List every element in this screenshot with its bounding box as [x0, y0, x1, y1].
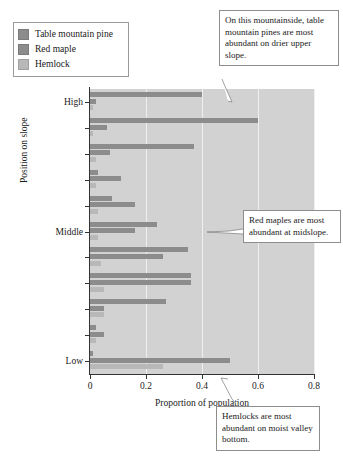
bar — [90, 118, 258, 123]
bar — [90, 338, 96, 343]
bar — [90, 358, 230, 363]
annotation-table-mountain-pine: On this mountainside, table mountain pin… — [219, 10, 339, 66]
bar — [90, 99, 96, 104]
bar — [90, 364, 163, 369]
bar — [90, 92, 202, 97]
bar — [90, 351, 93, 356]
bar — [90, 170, 98, 175]
bar — [90, 202, 135, 207]
annotation-hemlock: Hemlocks are most abundant on moist vall… — [216, 406, 320, 451]
bar — [90, 332, 104, 337]
bar — [90, 306, 104, 311]
bar — [90, 131, 93, 136]
legend-label-hemlock: Hemlock — [35, 59, 70, 70]
x-axis-tick-label: 0.8 — [308, 381, 320, 391]
bar — [90, 235, 98, 240]
bar — [90, 325, 96, 330]
bar — [90, 105, 93, 110]
bar — [90, 183, 96, 188]
bar — [90, 312, 104, 317]
bar — [90, 287, 104, 292]
legend-label-red-maple: Red maple — [35, 44, 76, 55]
chart-legend: Table mountain pine Red maple Hemlock — [13, 22, 129, 77]
bar — [90, 157, 96, 162]
bar — [90, 196, 112, 201]
legend-label-table-mountain-pine: Table mountain pine — [35, 29, 113, 40]
bar — [90, 273, 191, 278]
y-axis-title: Position on slope — [19, 118, 29, 183]
bar — [90, 299, 166, 304]
legend-item: Red maple — [18, 42, 123, 57]
x-axis-tick-label: 0.6 — [252, 381, 264, 391]
x-axis-tick-label: 0.2 — [140, 381, 152, 391]
x-axis-line — [89, 374, 314, 375]
legend-swatch-red-maple — [18, 44, 29, 55]
legend-item: Hemlock — [18, 57, 123, 72]
x-axis-tick — [314, 374, 315, 379]
y-axis-tick-label: Low — [66, 357, 83, 366]
bar — [90, 247, 188, 252]
x-axis-tick-label: 0 — [88, 381, 93, 391]
bar — [90, 150, 110, 155]
bar — [90, 144, 194, 149]
y-axis-line — [89, 87, 90, 375]
bar — [90, 228, 135, 233]
bar — [90, 176, 121, 181]
bar — [90, 254, 163, 259]
y-axis-tick-label: Middle — [56, 228, 83, 237]
bar — [90, 280, 191, 285]
x-axis-tick-label: 0.4 — [196, 381, 208, 391]
y-axis-tick-label: High — [64, 98, 83, 107]
bar — [90, 222, 157, 227]
annotation-red-maple: Red maples are most abundant at midslope… — [243, 210, 341, 243]
gridline — [202, 89, 203, 374]
legend-swatch-table-mountain-pine — [18, 29, 29, 40]
gridline — [146, 89, 147, 374]
bar — [90, 261, 101, 266]
legend-swatch-hemlock — [18, 59, 29, 70]
bar — [90, 209, 98, 214]
bar — [90, 125, 107, 130]
legend-item: Table mountain pine — [18, 27, 123, 42]
